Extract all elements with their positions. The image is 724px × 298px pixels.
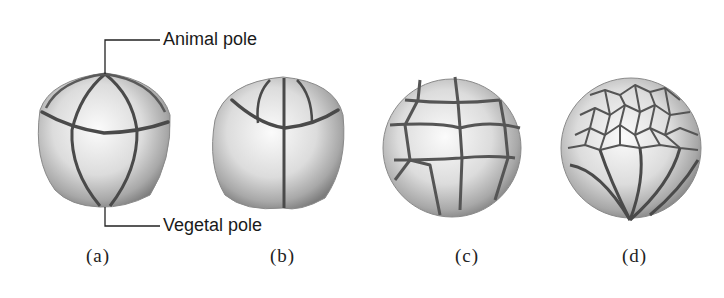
embryo-stage-a	[38, 73, 170, 207]
embryo-stage-d	[561, 78, 701, 220]
embryo-stage-c	[383, 77, 521, 217]
embryo-stage-b	[213, 77, 344, 209]
vegetal-pole-label: Vegetal pole	[163, 215, 262, 236]
animal-pole-label: Animal pole	[163, 29, 257, 50]
caption-c: (c)	[455, 245, 479, 267]
caption-a: (a)	[86, 245, 110, 267]
animal-pole-leader-line	[105, 40, 160, 74]
caption-b: (b)	[270, 245, 295, 267]
caption-d: (d)	[622, 245, 647, 267]
vegetal-pole-leader-line	[105, 207, 160, 226]
